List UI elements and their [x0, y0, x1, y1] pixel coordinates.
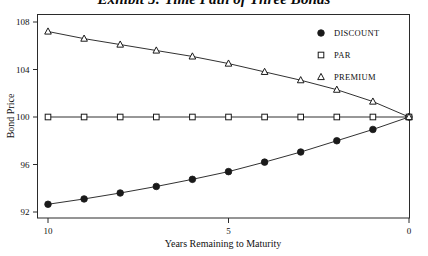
x-axis-tick-label: 10 — [44, 226, 54, 236]
chart-legend: DISCOUNTPARPREMIUM — [318, 28, 380, 82]
data-point-marker — [117, 114, 123, 120]
data-point-marker — [190, 114, 196, 120]
data-point-marker — [45, 201, 52, 208]
data-point-marker — [226, 114, 232, 120]
data-point-marker — [318, 52, 324, 58]
x-axis-tick-label: 0 — [407, 226, 412, 236]
x-axis: 1050 — [44, 218, 412, 236]
data-point-marker — [45, 114, 51, 120]
plot-frame — [38, 15, 410, 219]
y-axis-ticks — [33, 22, 38, 212]
data-point-marker — [262, 114, 268, 120]
legend-item-label: PAR — [334, 50, 351, 60]
data-point-marker — [189, 176, 196, 183]
y-axis-tick-label: 96 — [21, 160, 31, 170]
y-axis: 9296100104108 — [16, 17, 38, 217]
data-point-marker — [318, 73, 325, 79]
series-par — [45, 114, 412, 120]
y-axis-tick-labels: 9296100104108 — [16, 17, 30, 217]
data-point-marker — [370, 126, 377, 133]
legend-item-label: PREMIUM — [334, 72, 376, 82]
series-line — [48, 117, 409, 204]
data-point-marker — [117, 190, 124, 197]
data-point-marker — [154, 114, 160, 120]
data-point-marker — [334, 114, 340, 120]
series-discount — [45, 114, 413, 208]
data-point-marker — [318, 30, 325, 37]
y-axis-tick-label: 92 — [21, 207, 30, 217]
y-axis-tick-label: 108 — [16, 17, 30, 27]
legend-item-discount[interactable]: DISCOUNT — [318, 28, 380, 38]
x-axis-ticks — [48, 218, 409, 223]
data-point-marker — [370, 114, 376, 120]
data-point-marker — [298, 114, 304, 120]
chart-figure: Exhibit 5: Time Path of Three Bonds 9296… — [0, 0, 428, 256]
data-point-marker — [81, 196, 88, 203]
data-point-marker — [81, 114, 87, 120]
data-point-marker — [261, 159, 268, 166]
x-axis-tick-labels: 1050 — [44, 226, 412, 236]
data-point-marker — [153, 183, 160, 190]
y-axis-tick-label: 100 — [16, 112, 30, 122]
data-point-marker — [334, 137, 341, 144]
y-axis-tick-label: 104 — [16, 65, 30, 75]
plot-area: 9296100104108 1050 Bond Price Years Rema… — [0, 0, 428, 256]
legend-item-premium[interactable]: PREMIUM — [318, 72, 376, 82]
legend-item-label: DISCOUNT — [334, 28, 380, 38]
data-series-layer — [45, 28, 413, 208]
data-point-marker — [225, 168, 232, 175]
x-axis-title: Years Remaining to Maturity — [165, 238, 281, 249]
data-point-marker — [45, 28, 52, 34]
x-axis-tick-label: 5 — [226, 226, 231, 236]
legend-item-par[interactable]: PAR — [318, 50, 350, 60]
data-point-marker — [297, 149, 304, 156]
y-axis-title: Bond Price — [5, 93, 16, 138]
